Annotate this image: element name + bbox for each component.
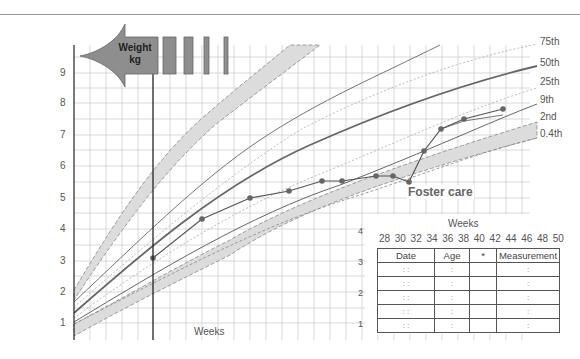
week-tick: 50 (553, 233, 564, 244)
arrow-label: Weight kg (110, 42, 160, 66)
y-tick: 6 (60, 160, 66, 171)
inset-week-ticks: 28 30 32 34 36 38 40 42 44 46 48 50 (379, 233, 564, 244)
week-tick: 38 (458, 233, 469, 244)
week-tick: 42 (490, 233, 501, 244)
percentile-label: 2nd (540, 111, 557, 122)
cell-date[interactable]: : : (378, 263, 435, 277)
percentile-label: 9th (540, 94, 554, 105)
y-tick: 5 (60, 192, 66, 203)
table-row: : : : : (378, 319, 560, 333)
cell-measurement[interactable]: : (497, 291, 560, 305)
y-tick: 4 (60, 223, 66, 234)
measurement-table: Date Age * Measurement : : : : : : : : :… (377, 248, 560, 333)
y-tick: 2 (60, 286, 66, 297)
week-tick: 44 (505, 233, 516, 244)
week-tick: 36 (442, 233, 453, 244)
col-measurement: Measurement (497, 249, 560, 263)
cell-measurement[interactable]: : (497, 263, 560, 277)
inset-y-tick: 3 (358, 257, 363, 267)
week-tick: 40 (474, 233, 485, 244)
y-tick: 1 (60, 317, 66, 328)
week-tick: 46 (521, 233, 532, 244)
foster-care-annotation: Foster care (407, 185, 474, 199)
cell-asterisk[interactable] (470, 319, 497, 333)
arrow-label-weight: Weight (110, 42, 160, 54)
cell-date[interactable]: : : (378, 277, 435, 291)
week-tick: 34 (426, 233, 437, 244)
table-row: : : : : (378, 277, 560, 291)
week-tick: 32 (411, 233, 422, 244)
percentile-label: 25th (540, 76, 559, 87)
cell-date[interactable]: : : (378, 305, 435, 319)
col-date: Date (378, 249, 435, 263)
col-age: Age (435, 249, 470, 263)
cell-age[interactable]: : (435, 305, 470, 319)
x-axis-label: Weeks (194, 326, 224, 337)
cell-age[interactable]: : (435, 263, 470, 277)
week-tick: 28 (379, 233, 390, 244)
arrow-label-kg: kg (110, 54, 160, 66)
cell-age[interactable]: : (435, 277, 470, 291)
table-header-row: Date Age * Measurement (378, 249, 560, 263)
percentile-label: 75th (540, 36, 559, 47)
y-tick: 7 (60, 129, 66, 140)
table-row: : : : : (378, 263, 560, 277)
cell-asterisk[interactable] (470, 277, 497, 291)
percentile-label: 50th (540, 57, 559, 68)
cell-asterisk[interactable] (470, 291, 497, 305)
cell-measurement[interactable]: : (497, 277, 560, 291)
percentile-label: 0.4th (540, 128, 562, 139)
cell-measurement[interactable]: : (497, 319, 560, 333)
cell-age[interactable]: : (435, 291, 470, 305)
cell-date[interactable]: : : (378, 291, 435, 305)
y-tick: 3 (60, 255, 66, 266)
inset-y-tick: 2 (358, 288, 363, 298)
inset-y-tick: 4 (358, 226, 363, 236)
week-tick: 48 (537, 233, 548, 244)
table-row: : : : : (378, 291, 560, 305)
y-tick: 9 (60, 67, 66, 78)
col-asterisk: * (470, 249, 497, 263)
cell-asterisk[interactable] (470, 305, 497, 319)
inset-y-tick: 1 (358, 319, 363, 329)
cell-asterisk[interactable] (470, 263, 497, 277)
cell-age[interactable]: : (435, 319, 470, 333)
cell-measurement[interactable]: : (497, 305, 560, 319)
inset-title: Weeks (448, 218, 478, 229)
table-row: : : : : (378, 305, 560, 319)
cell-date[interactable]: : : (378, 319, 435, 333)
y-tick: 8 (60, 97, 66, 108)
week-tick: 30 (395, 233, 406, 244)
